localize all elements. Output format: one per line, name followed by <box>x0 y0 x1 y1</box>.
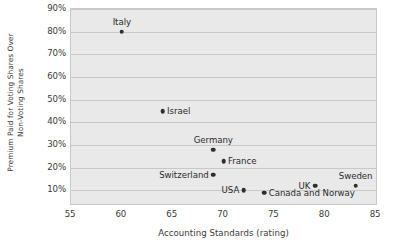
data-point-switzerland <box>211 172 216 177</box>
data-point-label-switzerland: Switzerland <box>159 170 209 180</box>
x-axis-title: Accounting Standards (rating) <box>70 228 377 238</box>
x-tick-label-65: 65 <box>166 209 177 219</box>
y-tick-label-20: 20% <box>47 162 66 172</box>
y-tick-label-80: 80% <box>47 26 66 36</box>
x-tick-label-70: 70 <box>217 209 228 219</box>
y-axis-title: Premium Paid for Voting Shares Over Non-… <box>0 0 30 205</box>
x-tick-label-60: 60 <box>115 209 126 219</box>
y-axis-title-line1: Premium Paid for Voting Shares Over <box>5 33 14 171</box>
gridline-y-40 <box>71 122 376 123</box>
data-point-canada-and-norway <box>262 190 267 195</box>
data-point-israel <box>160 109 165 114</box>
gridline-y-30 <box>71 145 376 146</box>
gridline-y-60 <box>71 77 376 78</box>
scatter-chart-figure: Premium Paid for Voting Shares Over Non-… <box>0 0 400 251</box>
data-point-label-israel: Israel <box>167 106 190 116</box>
data-point-label-usa: USA <box>222 185 240 195</box>
plot-area: ItalyIsraelGermanyFranceSwitzerlandUSACa… <box>70 8 377 205</box>
gridline-y-80 <box>71 32 376 33</box>
data-point-label-italy: Italy <box>113 17 131 27</box>
data-point-uk <box>313 184 318 189</box>
y-tick-label-70: 70% <box>47 48 66 58</box>
y-tick-label-50: 50% <box>47 94 66 104</box>
data-point-sweden <box>353 184 358 189</box>
y-tick-label-90: 90% <box>47 3 66 13</box>
data-point-label-uk: UK <box>299 181 311 191</box>
data-point-germany <box>211 147 216 152</box>
x-tick-label-55: 55 <box>65 209 76 219</box>
y-tick-label-30: 30% <box>47 139 66 149</box>
data-point-label-france: France <box>228 156 256 166</box>
y-tick-label-60: 60% <box>47 71 66 81</box>
gridline-y-90 <box>71 9 376 10</box>
y-tick-label-10: 10% <box>47 184 66 194</box>
data-point-italy <box>120 29 125 34</box>
x-tick-label-80: 80 <box>319 209 330 219</box>
x-tick-label-85: 85 <box>370 209 381 219</box>
x-axis-tick-labels: 55606570758085 <box>0 209 400 225</box>
data-point-label-germany: Germany <box>194 135 233 145</box>
data-point-label-canada-and-norway: Canada and Norway <box>269 188 355 198</box>
x-tick-label-75: 75 <box>268 209 279 219</box>
gridline-y-50 <box>71 100 376 101</box>
data-point-france <box>221 159 226 164</box>
gridline-y-20 <box>71 168 376 169</box>
y-axis-title-line2: Non-Voting Shares <box>15 33 25 171</box>
y-tick-label-40: 40% <box>47 116 66 126</box>
data-point-usa <box>242 188 247 193</box>
gridline-y-70 <box>71 54 376 55</box>
data-point-label-sweden: Sweden <box>339 171 373 181</box>
